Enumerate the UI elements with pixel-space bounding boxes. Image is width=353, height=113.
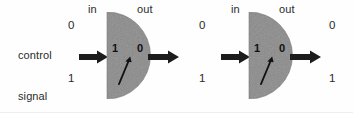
left-gauge-control-high: 0	[68, 19, 75, 32]
left-gauge-dial-value-zero: 0	[137, 42, 143, 55]
right-gauge-input-arrow	[221, 49, 251, 65]
figure-canvas: control signal 0 1 in out	[0, 0, 353, 113]
right-gauge-output-arrow	[290, 49, 322, 65]
left-gauge-input-arrow	[79, 49, 109, 65]
control-signal-line2: signal	[18, 90, 52, 104]
right-gauge-needle	[255, 56, 279, 86]
left-gauge-output-arrow	[148, 49, 180, 65]
right-gauge-out-low: 1	[329, 72, 336, 85]
right-gauge-in-label: in	[231, 3, 240, 16]
left-gauge-dial-value-one: 1	[112, 42, 118, 55]
control-signal-line1: control	[18, 49, 52, 63]
left-gauge-needle	[113, 56, 137, 86]
right-gauge-control-high: 0	[199, 19, 206, 32]
left-gauge-control-low: 1	[68, 72, 75, 85]
right-gauge-dial-value-one: 1	[254, 42, 260, 55]
right-gauge-out-high: 0	[329, 19, 336, 32]
left-gauge-in-label: in	[88, 3, 97, 16]
right-gauge-dial-value-zero: 0	[279, 42, 285, 55]
bottom-edge-divider	[0, 112, 353, 113]
right-gauge-control-low: 1	[199, 72, 206, 85]
control-signal-label: control signal	[18, 22, 52, 113]
